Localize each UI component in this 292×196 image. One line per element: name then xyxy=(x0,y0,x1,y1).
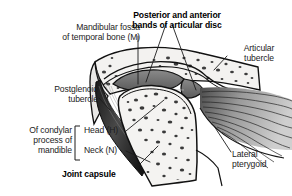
label-condylar-process: Of condylar process of mandible xyxy=(4,125,72,156)
ramus-posterior-edge xyxy=(196,150,222,186)
lateral-pterygoid-muscle xyxy=(196,87,292,186)
anatomy-figure-page: Mandibular fossa of temporal bone (M) Po… xyxy=(0,0,292,196)
label-joint-capsule: Joint capsule xyxy=(62,169,140,179)
label-postglenoid-tubercle-line2: tubercle xyxy=(14,94,98,104)
label-condylar-process-line1: Of condylar xyxy=(4,125,72,135)
label-mandibular-fossa-line2: of temporal bone (M) xyxy=(18,32,140,42)
label-lateral-pterygoid: Lateral pterygoid xyxy=(232,149,290,169)
label-lateral-pterygoid-line1: Lateral xyxy=(232,149,290,159)
label-articular-tubercle-line2: tubercle xyxy=(228,53,290,63)
label-condylar-process-line3: mandible xyxy=(4,145,72,155)
label-lateral-pterygoid-line2: pterygoid xyxy=(232,159,290,169)
label-neck: Neck (N) xyxy=(84,145,128,155)
label-articular-tubercle: Articular tubercle xyxy=(228,43,290,63)
label-articular-tubercle-line1: Articular xyxy=(228,43,290,53)
label-condylar-process-line2: process of xyxy=(4,135,72,145)
label-articular-disc-bands: Posterior and anterior bands of articula… xyxy=(118,10,236,30)
condylar-process-bracket xyxy=(75,126,80,160)
label-articular-disc-bands-line2: bands of articular disc xyxy=(118,20,236,30)
label-head: Head (H) xyxy=(84,125,128,135)
label-articular-disc-bands-line1: Posterior and anterior xyxy=(118,10,236,20)
label-postglenoid-tubercle-line1: Postglenoid xyxy=(14,84,98,94)
label-postglenoid-tubercle: Postglenoid tubercle xyxy=(14,84,98,104)
